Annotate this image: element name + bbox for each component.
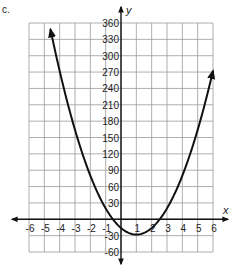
- x-tick-label: -3: [72, 223, 81, 234]
- y-tick-label: 330: [102, 34, 119, 45]
- x-tick-label: 6: [211, 223, 217, 234]
- x-tick-label: 5: [196, 223, 202, 234]
- y-tick-label: 210: [102, 100, 119, 111]
- y-tick-label: 300: [102, 51, 119, 62]
- y-tick-label: 240: [102, 83, 119, 94]
- x-tick-label: 4: [181, 223, 187, 234]
- y-tick-label: 30: [108, 198, 120, 209]
- y-tick-label: -30: [105, 231, 120, 242]
- x-tick-label: 1: [135, 223, 141, 234]
- x-tick-label: -2: [87, 223, 96, 234]
- parabola-chart: xy -6-5-4-3-2-11234563603303002702402101…: [0, 0, 236, 271]
- x-tick-label: -6: [26, 223, 35, 234]
- y-tick-label: 180: [102, 116, 119, 127]
- y-tick-label: 150: [102, 133, 119, 144]
- y-tick-label: 120: [102, 149, 119, 160]
- y-tick-label: 270: [102, 67, 119, 78]
- x-tick-label: -5: [41, 223, 50, 234]
- y-tick-label: 90: [108, 165, 120, 176]
- y-axis-label: y: [125, 4, 133, 16]
- y-tick-label: 60: [108, 182, 120, 193]
- y-tick-label: 360: [102, 18, 119, 29]
- x-tick-label: 3: [165, 223, 171, 234]
- y-tick-label: -60: [105, 247, 120, 258]
- x-axis-label: x: [222, 204, 229, 216]
- x-tick-label: -4: [56, 223, 65, 234]
